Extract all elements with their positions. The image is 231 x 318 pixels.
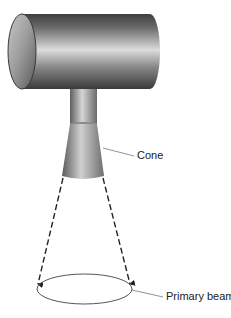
primary-beam-ellipse	[37, 274, 132, 304]
cone	[62, 124, 104, 179]
beam-arrow-left	[38, 178, 63, 284]
cylinder-end-cap	[8, 14, 36, 89]
cone-label: Cone	[137, 150, 163, 161]
beam-arrow-right	[103, 178, 130, 284]
antenna-diagram	[0, 0, 231, 318]
cone-leader-line	[103, 148, 134, 156]
primary-beam-leader-line	[132, 290, 163, 297]
antenna-neck	[70, 89, 97, 124]
primary-beam-label: Primary beam	[166, 291, 231, 302]
cylinder-body	[22, 14, 160, 89]
cylinder-housing	[8, 14, 160, 89]
